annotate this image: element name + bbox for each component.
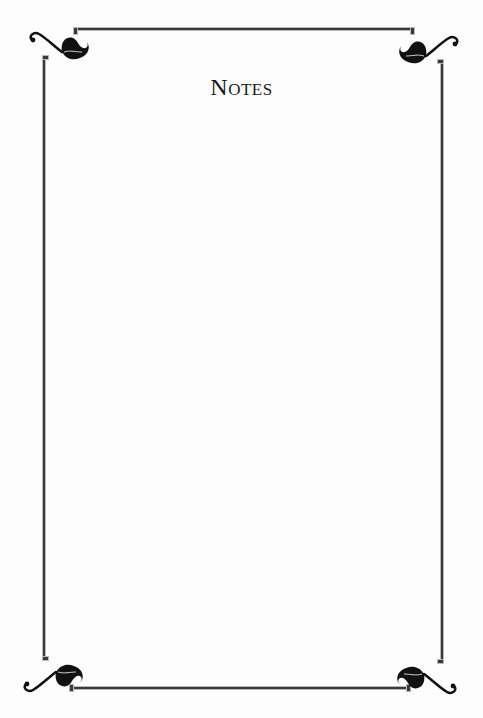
notes-page: Notes bbox=[0, 0, 483, 718]
frame-bottom-rule bbox=[70, 687, 410, 689]
frame-top-rule bbox=[74, 28, 414, 30]
frame-right-rule bbox=[441, 60, 443, 663]
frame-left-rule bbox=[43, 57, 45, 659]
leaf-flourish-icon bbox=[20, 654, 84, 694]
leaf-flourish-icon bbox=[396, 656, 460, 696]
leaf-flourish-icon bbox=[26, 30, 90, 70]
page-title: Notes bbox=[0, 74, 483, 101]
leaf-flourish-icon bbox=[398, 34, 462, 74]
